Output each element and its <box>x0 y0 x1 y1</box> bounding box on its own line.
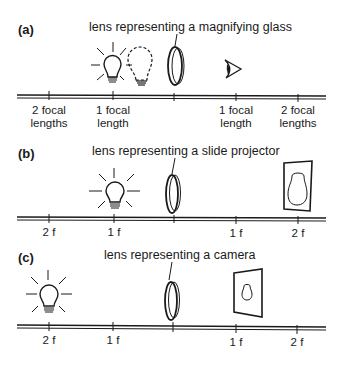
tick-label: 1 focal length <box>219 104 253 130</box>
tick-label: 1 f <box>230 336 243 349</box>
tick-label: 2 f <box>43 226 56 239</box>
optical-axis <box>17 322 326 334</box>
optics-drawing-b <box>0 130 346 240</box>
tick-label: 1 focal length <box>96 104 130 130</box>
tick-label: 2 focal lengths <box>30 104 67 130</box>
tick-label: 2 focal lengths <box>279 104 316 130</box>
lens-icon <box>168 47 184 85</box>
camera-film-icon <box>234 269 262 317</box>
panel-a: (a) lens representing a magnifying glass <box>0 0 346 130</box>
virtual-image-bulb-icon <box>128 47 152 85</box>
projection-screen-icon <box>284 161 312 211</box>
light-bulb-icon <box>26 270 72 312</box>
lens-icon <box>166 175 181 213</box>
tick-label: 1 f <box>107 334 120 347</box>
tick-label: 2 f <box>291 336 304 349</box>
optical-axis <box>17 214 326 224</box>
lens-icon <box>165 282 180 320</box>
eye-icon <box>225 60 241 78</box>
tick-label: 2 f <box>43 334 56 347</box>
panel-c: (c) lens representing a camera <box>0 240 346 366</box>
light-bulb-icon <box>91 42 132 82</box>
tick-label: 1 f <box>108 226 121 239</box>
tick-label: 2 f <box>292 227 305 240</box>
tick-label: 1 f <box>230 227 243 240</box>
panel-b: (b) lens representing a slide projector <box>0 130 346 240</box>
light-bulb-icon <box>89 168 140 208</box>
optical-axis <box>17 91 326 102</box>
